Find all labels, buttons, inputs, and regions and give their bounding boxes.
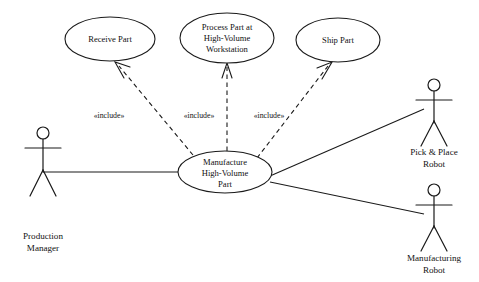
- stereotype-label-include-process-part: «include»: [184, 111, 215, 120]
- actor-manufacturing-robot[interactable]: Manufacturing Robot: [407, 184, 461, 275]
- use-case-manufacture-high-volume-part[interactable]: Manufacture High-Volume Part: [178, 151, 272, 193]
- actor-label-production-manager-line1: Production: [23, 231, 63, 241]
- actor-label-pick-and-place-robot-line1: Pick & Place: [410, 147, 457, 157]
- actor-production-manager[interactable]: Production Manager: [23, 127, 63, 253]
- association-manufacture-to-manufacturing-robot[interactable]: [270, 182, 424, 214]
- association-manufacture-to-pick-and-place-robot[interactable]: [270, 109, 424, 176]
- use-case-receive-part[interactable]: Receive Part: [65, 17, 155, 61]
- stereotype-labels-group: «include» «include» «include»: [94, 111, 285, 120]
- use-case-label-process-part-line3: Workstation: [206, 44, 248, 54]
- include-dependencies-group: [115, 62, 332, 158]
- actor-label-manufacturing-robot-line2: Robot: [423, 265, 446, 275]
- uml-diagram-svg: Receive Part Process Part at High-Volume…: [0, 0, 479, 282]
- use-case-ship-part[interactable]: Ship Part: [296, 18, 380, 62]
- actor-label-manufacturing-robot-line1: Manufacturing: [407, 253, 461, 263]
- include-dependency-receive-part[interactable]: [115, 62, 193, 155]
- actor-label-production-manager-line2: Manager: [27, 243, 59, 253]
- use-case-process-part[interactable]: Process Part at High-Volume Workstation: [180, 13, 274, 63]
- actor-head-icon-production-manager: [37, 127, 49, 139]
- stereotype-label-include-receive-part: «include»: [94, 111, 125, 120]
- use-case-label-receive-part: Receive Part: [88, 34, 132, 44]
- actor-leg-right-production-manager: [43, 170, 56, 196]
- stereotype-label-include-ship-part: «include»: [254, 111, 285, 120]
- include-dependency-ship-part[interactable]: [257, 62, 332, 158]
- actor-pick-and-place-robot[interactable]: Pick & Place Robot: [410, 79, 457, 169]
- actor-leg-right-pick-and-place-robot: [434, 121, 447, 146]
- actor-label-pick-and-place-robot-line2: Robot: [423, 159, 446, 169]
- arrowhead-ship-part: [317, 62, 332, 79]
- actor-head-icon-manufacturing-robot: [428, 184, 440, 196]
- include-dependency-process-part[interactable]: [222, 63, 232, 151]
- use-case-label-ship-part: Ship Part: [322, 35, 354, 45]
- use-case-label-process-part-line2: High-Volume: [204, 33, 251, 43]
- use-case-label-manufacture-line1: Manufacture: [203, 157, 247, 167]
- actor-leg-left-pick-and-place-robot: [421, 121, 434, 146]
- arrowhead-receive-part: [115, 62, 130, 78]
- actor-leg-left-production-manager: [30, 170, 43, 196]
- actor-leg-right-manufacturing-robot: [434, 226, 447, 251]
- actor-head-icon-pick-and-place-robot: [428, 79, 440, 91]
- use-case-label-process-part-line1: Process Part at: [202, 22, 253, 32]
- use-case-label-manufacture-line3: Part: [218, 179, 232, 189]
- use-case-diagram-canvas: Receive Part Process Part at High-Volume…: [0, 0, 479, 282]
- use-case-label-manufacture-line2: High-Volume: [202, 168, 249, 178]
- include-line-receive-part: [119, 66, 193, 155]
- actor-leg-left-manufacturing-robot: [421, 226, 434, 251]
